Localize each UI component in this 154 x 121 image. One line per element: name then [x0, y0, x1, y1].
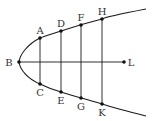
- label-K: K: [98, 107, 106, 118]
- label-E: E: [57, 95, 64, 106]
- parabola-diagram: B L A C D E F G H K: [0, 0, 154, 121]
- point-E: [59, 90, 63, 94]
- label-G: G: [77, 101, 85, 112]
- point-K: [100, 102, 104, 106]
- point-D: [59, 29, 63, 33]
- label-B: B: [5, 57, 12, 68]
- point-G: [79, 96, 83, 100]
- label-H: H: [98, 6, 107, 17]
- label-F: F: [78, 12, 85, 23]
- point-H: [100, 17, 104, 21]
- label-L: L: [128, 57, 135, 68]
- point-F: [79, 23, 83, 27]
- parabola-figure: B L A C D E F G H K: [0, 0, 154, 121]
- point-C: [38, 82, 42, 86]
- label-D: D: [57, 18, 65, 29]
- label-A: A: [35, 25, 44, 36]
- point-L: [122, 60, 126, 64]
- point-A: [38, 36, 42, 40]
- point-B: [17, 60, 21, 64]
- label-C: C: [36, 87, 44, 98]
